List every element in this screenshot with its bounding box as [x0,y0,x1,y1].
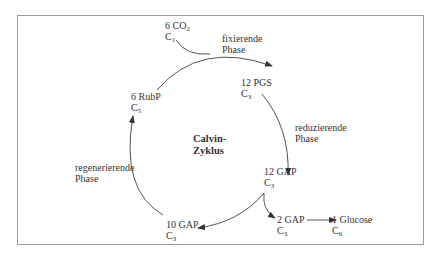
gap10-carbon-subscript: 3 [173,235,177,243]
node-rubp: 6 RubP C5 [131,91,161,113]
arrow-co2-input [176,40,210,54]
co2-carbon: C [165,31,172,42]
gap10-carbon: C [166,230,173,241]
node-glucose: 1 Glucose C6 [332,214,372,236]
gap12-carbon-subscript: 3 [271,182,275,190]
gap2-amount: 2 GAP [277,214,305,225]
node-gap2: 2 GAP C3 [277,214,305,236]
rubp-carbon-subscript: 5 [138,107,142,115]
gap2-carbon: C [277,225,284,236]
co2-amount: 6 CO [165,20,186,31]
gap12-carbon: C [264,177,271,188]
gap2-carbon-subscript: 3 [284,230,288,238]
arrow-gap10-to-rubp [130,116,163,215]
co2-subscript: 2 [186,25,190,33]
cycle-arrows [0,0,441,259]
pgs-carbon-subscript: 3 [248,93,252,101]
phase-reg-line1: regenerierende [75,162,134,173]
arrow-gap12-to-gap2 [264,193,275,218]
phase-reg: regenerierende Phase [75,162,134,184]
pgs-carbon: C [241,88,248,99]
arrow-pgs-to-gap12 [262,94,288,175]
arrow-gap12-to-gap10 [198,193,264,228]
node-pgs: 12 PGS C3 [241,77,272,99]
glucose-carbon: C [332,225,339,236]
node-gap10: 10 GAP C3 [166,219,199,241]
phase-reg-line2: Phase [75,173,98,184]
pgs-amount: 12 PGS [241,77,272,88]
cycle-title: Calvin- Zyklus [193,133,226,157]
node-gap12: 12 GAP C3 [264,166,297,188]
node-co2: 6 CO2 C1 [165,20,190,42]
gap12-amount: 12 GAP [264,166,297,177]
phase-red: reduzierende Phase [295,122,347,144]
cycle-title-line1: Calvin- [193,133,226,144]
phase-fix-line1: fixierende [222,33,263,44]
phase-fix-line2: Phase [222,44,245,55]
phase-red-line1: reduzierende [295,122,347,133]
rubp-carbon: C [131,102,138,113]
co2-carbon-subscript: 1 [172,36,176,44]
rubp-amount: 6 RubP [131,91,161,102]
phase-red-line2: Phase [295,133,318,144]
glucose-carbon-subscript: 6 [339,230,343,238]
gap10-amount: 10 GAP [166,219,199,230]
cycle-title-line2: Zyklus [193,145,224,156]
glucose-amount: 1 Glucose [332,214,372,225]
phase-fix: fixierende Phase [222,33,263,55]
